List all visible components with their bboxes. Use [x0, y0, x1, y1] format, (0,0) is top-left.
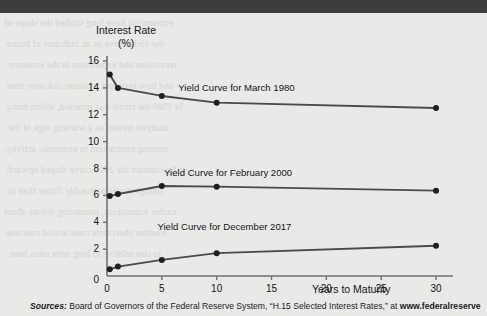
data-point — [433, 243, 439, 249]
x-tick-label: 25 — [369, 283, 393, 294]
x-tick-label: 5 — [150, 283, 174, 294]
y-tick-label: 12 — [73, 109, 99, 120]
data-point — [433, 188, 439, 194]
series-line-2 — [110, 186, 436, 196]
data-point — [107, 193, 113, 199]
x-tick-label: 0 — [95, 283, 119, 294]
data-point — [115, 85, 121, 91]
y-tick-label: 2 — [73, 243, 99, 254]
data-point — [115, 191, 121, 197]
data-point — [159, 93, 165, 99]
data-point — [115, 264, 121, 270]
data-point — [107, 71, 113, 77]
sources-footnote: Sources: Board of Governors of the Feder… — [0, 295, 487, 316]
series-line-3 — [110, 246, 436, 270]
data-point — [159, 257, 165, 263]
sources-label: Sources: — [30, 301, 67, 311]
sources-body: Board of Governors of the Federal Reserv… — [67, 301, 400, 311]
y-tick-label: 6 — [73, 189, 99, 200]
yield-curve-chart: Interest Rate (%) Years to Maturity 0246… — [0, 13, 487, 295]
x-tick-label: 15 — [260, 283, 284, 294]
series-annotation-3: Yield Curve for December 2017 — [157, 221, 291, 232]
x-tick-label: 20 — [314, 283, 338, 294]
data-point — [107, 266, 113, 272]
y-tick-label: 14 — [73, 82, 99, 93]
data-point — [214, 184, 220, 190]
x-tick-label: 30 — [424, 283, 448, 294]
y-tick-label: 8 — [73, 163, 99, 174]
y-tick-label: 10 — [73, 136, 99, 147]
x-tick-label: 10 — [205, 283, 229, 294]
data-point — [214, 100, 220, 106]
sources-url: www.federalreserve — [400, 301, 481, 311]
data-point — [433, 105, 439, 111]
y-tick-label: 16 — [73, 55, 99, 66]
series-annotation-2: Yield Curve for February 2000 — [164, 167, 292, 178]
series-annotation-1: Yield Curve for March 1980 — [178, 82, 294, 93]
data-point — [214, 250, 220, 256]
data-point — [159, 183, 165, 189]
y-tick-label: 4 — [73, 216, 99, 227]
top-dark-band — [0, 0, 487, 13]
